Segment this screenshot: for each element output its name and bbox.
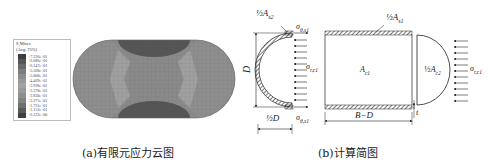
label-thickness: t (416, 108, 418, 117)
caption-a: (a)有限元应力云图 (82, 144, 174, 160)
label-half-area-c2: ½Ac2 (424, 64, 441, 76)
label-sigma-r-left: σr,c1 (306, 62, 318, 73)
stress-contour-plot (0, 0, 493, 165)
label-half-area-s2: ½As2 (256, 8, 274, 20)
label-sigma-r-right: σr,c1 (470, 64, 482, 75)
caption-b: (b)计算简图 (318, 144, 378, 160)
label-sigma-theta-top: σθ,s1 (296, 22, 309, 33)
label-diameter: D (241, 66, 252, 73)
label-half-area-s1: ½As1 (386, 12, 404, 24)
label-core-area: Ac1 (360, 65, 370, 76)
label-half-diameter: ½D (266, 113, 279, 123)
label-length-b-minus-d: B−D (355, 110, 373, 120)
label-sigma-theta-bottom: σθ,s1 (296, 113, 309, 124)
right-sketch (325, 25, 468, 125)
